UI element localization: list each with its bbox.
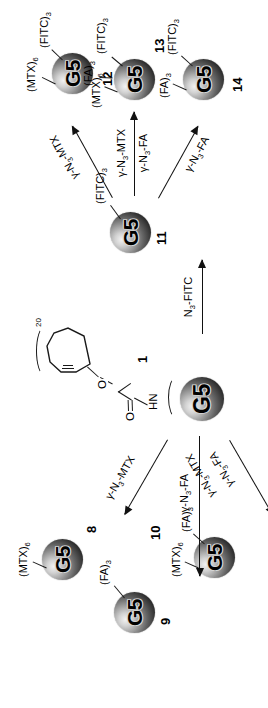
bond-ch2-a — [118, 391, 132, 400]
tether-9-fa — [114, 585, 125, 598]
arrow-shaft — [202, 260, 203, 334]
g5-sphere-9: G5 — [114, 592, 155, 633]
g5-core-label-9: G5 — [123, 599, 147, 626]
amide-nh-label: HN — [147, 392, 159, 411]
dendrimer-brace-1 — [168, 377, 176, 418]
reagent-label-11-to-13-line2: γ-N3-FA — [137, 114, 152, 192]
reagent-label-11-to-13-line1: γ-N3-MTX — [115, 114, 130, 192]
carbonyl-o-label: O — [124, 411, 136, 422]
rotated-figure-canvas: G5 HN O O 20 1 G5 — [0, 0, 268, 708]
repeat-unit-brace — [36, 327, 44, 375]
substituent-14-fa: (FA)3 — [158, 73, 173, 98]
compound-number-13: 13 — [152, 39, 167, 53]
reagent-label-1-to-11: N3-FITC — [182, 266, 197, 328]
g5-sphere-14: G5 — [183, 59, 224, 100]
substituent-10-mtx: (MTX)6 — [170, 542, 185, 577]
arrow-shaft — [134, 112, 135, 196]
bond-ch2-b — [118, 383, 131, 392]
compound-number-11: 11 — [154, 231, 169, 245]
repeat-count-label: 20 — [34, 318, 43, 327]
compound-number-1: 1 — [135, 356, 150, 363]
arrow-head — [198, 259, 206, 268]
g5-core-label-8: G5 — [51, 546, 75, 573]
g5-sphere-11: G5 — [110, 212, 151, 253]
ether-o-label: O — [96, 379, 108, 390]
substituent-9-fa: (FA)3 — [98, 560, 113, 585]
cyclooctyne-ring — [44, 322, 96, 378]
compound-number-9: 9 — [158, 618, 173, 625]
substituent-8-mtx: (MTX)6 — [17, 542, 32, 577]
compound-number-8: 8 — [84, 526, 99, 533]
arrow-head — [121, 506, 132, 518]
bond-n-to-carbonyl — [134, 398, 148, 406]
arrow-head — [196, 568, 204, 577]
g5-core-label-10: G5 — [203, 544, 227, 571]
tether-14-fitc — [181, 56, 193, 67]
g5-core-label-1: G5 — [189, 384, 216, 414]
substituent-13-fitc: (FITC)3 — [95, 18, 110, 54]
arrow-head — [266, 505, 268, 517]
g5-sphere-8: G5 — [42, 539, 83, 580]
g5-core-label-13: G5 — [123, 66, 147, 93]
g5-sphere-1: G5 — [180, 377, 224, 421]
tether-13-fitc — [111, 57, 122, 67]
g5-core-label-14: G5 — [192, 66, 216, 93]
reagent-label-11-to-12: γ-N3-MTX — [40, 120, 90, 194]
compound-number-10: 10 — [148, 526, 163, 540]
substituent-12-mtx: (MTX)6 — [25, 57, 40, 92]
substituent-14-fitc: (FITC)3 — [166, 19, 181, 55]
substituent-12-fitc: (FITC)3 — [38, 12, 53, 48]
substituent-13-fa: (FA)3 — [82, 61, 97, 86]
reaction-scheme: G5 HN O O 20 1 G5 — [0, 0, 268, 708]
g5-core-label-11: G5 — [119, 219, 143, 246]
bond-carbonyl-double-b — [128, 400, 129, 411]
g5-core-label-12: G5 — [61, 60, 85, 87]
reagent-label-1-to-8: γ-N3-MTX — [95, 441, 147, 516]
compound-number-14: 14 — [230, 78, 245, 92]
